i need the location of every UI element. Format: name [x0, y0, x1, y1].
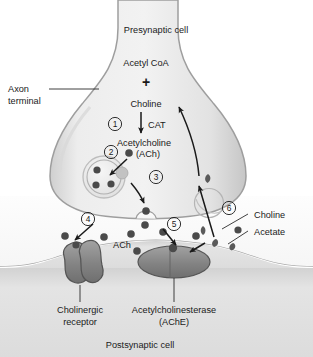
cat-enzyme-label: CAT	[148, 120, 166, 130]
ach-molecule	[141, 221, 149, 229]
ache-label-line1: Acetylcholinesterase	[132, 305, 216, 315]
acetylcholine-label: Acetylcholine	[117, 138, 171, 148]
ach-molecule	[127, 230, 135, 238]
step-number: 1	[113, 119, 118, 129]
diagram-canvas: 1 2 3 4 5 6 Pres	[0, 0, 313, 357]
cholinergic-receptor-label-line2: receptor	[63, 317, 97, 327]
vesicle-ach-transporter	[116, 167, 128, 179]
step-number: 5	[172, 219, 177, 229]
ache-label-line2: (AChE)	[159, 317, 189, 327]
vesicle-ach-molecule	[92, 181, 99, 188]
ach-key-molecule	[125, 149, 133, 157]
ach-cleft-label: ACh	[113, 240, 131, 250]
ach-molecule	[142, 207, 150, 215]
synapse-diagram: 1 2 3 4 5 6 Pres	[0, 0, 313, 357]
plus-sign-label: +	[142, 74, 150, 90]
step-number: 3	[154, 172, 159, 182]
postsynaptic-cell-label: Postsynaptic cell	[106, 340, 174, 350]
ach-molecule	[234, 226, 241, 233]
cholinergic-receptor	[63, 240, 103, 283]
presynaptic-cell-label: Presynaptic cell	[124, 25, 188, 35]
ach-molecule	[133, 247, 141, 255]
acetate-product-label: Acetate	[254, 227, 285, 237]
axon-terminal-label-line2: terminal	[8, 96, 41, 106]
cholinergic-receptor-label-line1: Cholinergic	[57, 305, 103, 315]
ach-abbreviation-label: (ACh)	[136, 149, 160, 159]
acetyl-coa-label: Acetyl CoA	[123, 58, 169, 68]
axon-terminal-label-line1: Axon	[8, 84, 29, 94]
receptor-subunit-right	[79, 240, 103, 282]
step-number: 6	[227, 203, 232, 213]
ach-bound-to-receptor	[72, 241, 79, 248]
ach-molecule	[100, 233, 108, 241]
vesicle-ach-molecule	[107, 180, 114, 187]
ach-bound-to-ache	[169, 244, 177, 252]
ach-molecule	[192, 232, 200, 240]
ach-molecule	[61, 232, 69, 240]
choline-label: Choline	[130, 99, 161, 109]
step-number: 2	[109, 147, 114, 157]
step-number: 4	[86, 214, 91, 224]
choline-product-label: Choline	[254, 210, 285, 220]
vesicle-ach-molecule	[93, 166, 100, 173]
